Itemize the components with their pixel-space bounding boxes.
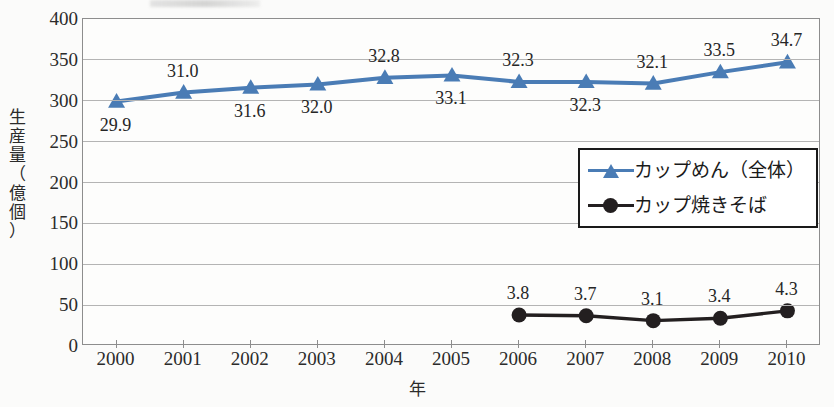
data-label: 3.7 xyxy=(555,284,615,304)
legend-label: カップ焼きそば xyxy=(634,195,767,215)
x-tick-label: 2007 xyxy=(550,348,620,370)
x-tick-label: 2008 xyxy=(617,348,687,370)
data-label: 31.6 xyxy=(220,101,280,121)
data-label: 31.0 xyxy=(153,61,213,81)
x-tick-label: 2005 xyxy=(416,348,486,370)
y-tick-label: 350 xyxy=(32,50,78,69)
x-axis-ticks: 2000200120022003200420052006200720082009… xyxy=(82,348,820,374)
y-axis-ticks: 400350300250200150100500 xyxy=(28,0,78,407)
x-tick-label: 2010 xyxy=(751,348,821,370)
x-tick-mark xyxy=(786,340,787,348)
y-tick-label: 100 xyxy=(32,254,78,273)
data-label: 34.7 xyxy=(756,30,816,50)
data-point-circle xyxy=(713,311,728,326)
chart-legend: カップめん（全体） カップ焼きそば xyxy=(578,148,818,228)
data-label: 3.1 xyxy=(622,289,682,309)
x-tick-mark xyxy=(116,340,117,348)
x-tick-label: 2006 xyxy=(483,348,553,370)
x-tick-mark xyxy=(451,340,452,348)
data-label: 4.3 xyxy=(756,279,816,299)
x-tick-label: 2000 xyxy=(81,348,151,370)
y-tick-label: 200 xyxy=(32,173,78,192)
x-tick-mark xyxy=(518,340,519,348)
legend-item-cup-noodle-total: カップめん（全体） xyxy=(588,153,805,187)
data-label: 32.8 xyxy=(354,46,414,66)
line-chart: 生 産 量 （ 億 個 ） 400350300250200150100500 2… xyxy=(0,0,834,407)
data-point-circle xyxy=(646,313,661,328)
data-label: 3.4 xyxy=(689,286,749,306)
x-tick-mark xyxy=(719,340,720,348)
legend-label: カップめん（全体） xyxy=(634,160,805,180)
x-tick-mark xyxy=(585,340,586,348)
x-axis-title: 年 xyxy=(0,375,834,400)
data-point-circle xyxy=(579,308,594,323)
circle-marker-icon xyxy=(588,195,634,215)
x-tick-label: 2004 xyxy=(349,348,419,370)
page-edge-smudge xyxy=(150,0,260,7)
y-tick-label: 400 xyxy=(32,9,78,28)
data-label: 33.1 xyxy=(421,88,481,108)
data-label: 32.1 xyxy=(622,52,682,72)
y-tick-label: 50 xyxy=(32,295,78,314)
y-tick-label: 0 xyxy=(32,336,78,355)
x-tick-label: 2001 xyxy=(148,348,218,370)
data-label: 32.3 xyxy=(488,50,548,70)
x-tick-label: 2009 xyxy=(684,348,754,370)
data-label: 29.9 xyxy=(86,115,146,135)
data-label: 32.0 xyxy=(287,97,347,117)
data-point-circle xyxy=(512,307,527,322)
gridline xyxy=(83,141,819,142)
gridline xyxy=(83,264,819,265)
x-tick-mark xyxy=(250,340,251,348)
x-tick-label: 2003 xyxy=(282,348,352,370)
y-tick-label: 250 xyxy=(32,132,78,151)
data-label: 33.5 xyxy=(689,40,749,60)
y-tick-label: 300 xyxy=(32,91,78,110)
x-tick-mark xyxy=(384,340,385,348)
data-point-triangle xyxy=(779,54,796,69)
legend-item-cup-yakisoba: カップ焼きそば xyxy=(588,188,767,222)
x-tick-mark xyxy=(652,340,653,348)
y-tick-label: 150 xyxy=(32,213,78,232)
x-tick-mark xyxy=(183,340,184,348)
triangle-marker-icon xyxy=(588,160,634,180)
x-tick-mark xyxy=(317,340,318,348)
data-label: 3.8 xyxy=(488,283,548,303)
data-label: 32.3 xyxy=(555,95,615,115)
x-tick-label: 2002 xyxy=(215,348,285,370)
